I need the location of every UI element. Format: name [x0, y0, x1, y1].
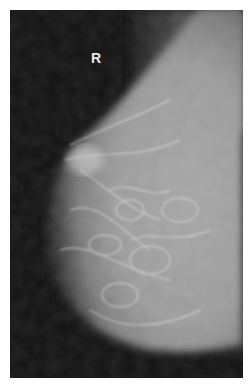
laterality-label: R — [91, 51, 101, 65]
breast-tissue-graphic — [10, 10, 243, 378]
mammogram-image: R — [10, 10, 243, 378]
